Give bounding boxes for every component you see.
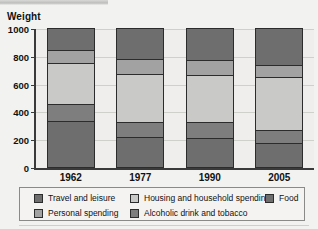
bar-segment-1962-alcoholic-drink-and-tobacco[interactable] — [47, 104, 95, 122]
bar-segment-2005-food[interactable] — [255, 143, 303, 168]
bar-segment-2005-alcoholic-drink-and-tobacco[interactable] — [255, 130, 303, 144]
bar-segment-1990-travel-and-leisure[interactable] — [186, 28, 234, 61]
legend-swatch-food — [265, 194, 274, 203]
legend-label-alcoholic-drink-and-tobacco: Alcoholic drink and tobacco — [144, 209, 247, 218]
window-top-strip — [0, 0, 108, 5]
bar-segment-1977-travel-and-leisure[interactable] — [116, 28, 164, 60]
legend-label-housing-and-household-spending: Housing and household spending — [144, 194, 270, 203]
legend-swatch-travel-and-leisure — [34, 194, 43, 203]
legend-item-personal-spending[interactable]: Personal spending — [34, 206, 118, 220]
y-tick-label-0: 0 — [24, 163, 29, 174]
plot-area: 020040060080010001962197719902005 — [34, 29, 314, 170]
legend-item-alcoholic-drink-and-tobacco[interactable]: Alcoholic drink and tobacco — [130, 206, 247, 220]
bar-segment-1977-personal-spending[interactable] — [116, 59, 164, 75]
bar-segment-1977-food[interactable] — [116, 137, 164, 168]
x-tick-label-1990: 1990 — [186, 172, 234, 183]
y-tick-0 — [31, 168, 36, 169]
legend-label-food: Food — [279, 194, 298, 203]
x-tick-label-1977: 1977 — [116, 172, 164, 183]
y-tick-label-800: 800 — [13, 51, 29, 62]
chart-legend: Travel and leisure Housing and household… — [19, 187, 305, 221]
legend-row-1: Travel and leisure Housing and household… — [20, 191, 304, 205]
legend-swatch-personal-spending — [34, 209, 43, 218]
legend-row-2: Personal spending Alcoholic drink and to… — [20, 206, 304, 220]
x-tick-label-1962: 1962 — [47, 172, 95, 183]
legend-label-travel-and-leisure: Travel and leisure — [48, 194, 115, 203]
y-tick-label-600: 600 — [13, 79, 29, 90]
legend-item-housing-and-household-spending[interactable]: Housing and household spending — [130, 191, 270, 205]
legend-item-food[interactable]: Food — [265, 191, 298, 205]
bar-segment-1990-alcoholic-drink-and-tobacco[interactable] — [186, 122, 234, 139]
bar-1962[interactable]: 1962 — [47, 29, 95, 168]
y-tick-800 — [31, 57, 36, 58]
y-tick-label-1000: 1000 — [8, 24, 29, 35]
bar-segment-1990-housing-and-household-spending[interactable] — [186, 75, 234, 123]
chart-page: Weight 020040060080010001962197719902005… — [0, 0, 318, 229]
bar-segment-1962-travel-and-leisure[interactable] — [47, 28, 95, 51]
y-tick-label-400: 400 — [13, 107, 29, 118]
y-tick-label-200: 200 — [13, 135, 29, 146]
legend-item-travel-and-leisure[interactable]: Travel and leisure — [34, 191, 115, 205]
y-tick-400 — [31, 112, 36, 113]
bar-2005[interactable]: 2005 — [255, 29, 303, 168]
bar-segment-1962-housing-and-household-spending[interactable] — [47, 63, 95, 105]
legend-swatch-alcoholic-drink-and-tobacco — [130, 209, 139, 218]
bar-segment-1962-food[interactable] — [47, 121, 95, 168]
bar-segment-1990-personal-spending[interactable] — [186, 60, 234, 76]
page-baseline-rule — [19, 225, 309, 226]
y-tick-200 — [31, 140, 36, 141]
legend-label-personal-spending: Personal spending — [48, 209, 118, 218]
x-tick-label-2005: 2005 — [255, 172, 303, 183]
bar-segment-1977-housing-and-household-spending[interactable] — [116, 74, 164, 123]
bar-segment-1990-food[interactable] — [186, 138, 234, 168]
bar-segment-2005-personal-spending[interactable] — [255, 65, 303, 78]
bar-segment-1962-personal-spending[interactable] — [47, 50, 95, 65]
y-tick-1000 — [31, 29, 36, 30]
bar-segment-2005-travel-and-leisure[interactable] — [255, 28, 303, 66]
bar-segment-1977-alcoholic-drink-and-tobacco[interactable] — [116, 122, 164, 138]
legend-swatch-housing-and-household-spending — [130, 194, 139, 203]
bar-1990[interactable]: 1990 — [186, 29, 234, 168]
y-axis-title: Weight — [7, 11, 41, 22]
y-tick-600 — [31, 85, 36, 86]
bar-1977[interactable]: 1977 — [116, 29, 164, 168]
bar-segment-2005-housing-and-household-spending[interactable] — [255, 77, 303, 132]
